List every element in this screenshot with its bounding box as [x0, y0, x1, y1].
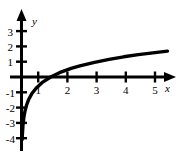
graph-canvas: 3 2 1 -1 -2 -3 -4 1 2 3 4 5 y x [0, 0, 179, 153]
y-tick-label-2: 2 [8, 41, 14, 53]
y-tick-label-3: 3 [8, 26, 14, 38]
y-tick-label-neg4: -4 [6, 133, 16, 145]
y-tick-label-neg2: -2 [6, 102, 15, 114]
y-tick-label-1: 1 [8, 56, 14, 68]
x-tick-label-3: 3 [94, 84, 100, 96]
y-tick-label-neg3: -3 [6, 117, 16, 129]
x-axis-label: x [164, 82, 170, 94]
x-tick-label-2: 2 [65, 84, 71, 96]
x-axis-arrowhead [164, 72, 176, 82]
x-tick-label-4: 4 [123, 84, 129, 96]
y-axis-label: y [31, 15, 37, 27]
x-tick-label-5: 5 [152, 84, 158, 96]
y-axis-arrowhead [17, 9, 27, 21]
log-function-plot: 3 2 1 -1 -2 -3 -4 1 2 3 4 5 y x [0, 0, 179, 153]
y-tick-label-neg1: -1 [6, 87, 15, 99]
